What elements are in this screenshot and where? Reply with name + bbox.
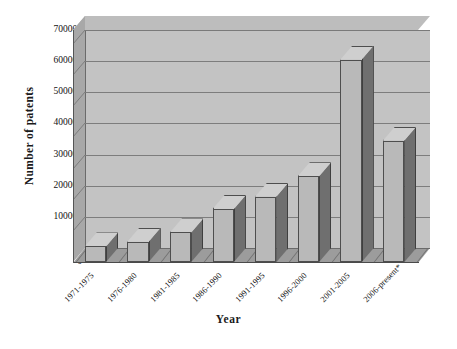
x-axis-title: Year — [0, 313, 457, 325]
bars-layer — [73, 16, 430, 263]
y-axis-title: Number of patents — [23, 46, 35, 226]
bar-1986-1990 — [213, 195, 246, 262]
x-axis-tick-label: 1981-1985 — [148, 270, 182, 304]
bar-front-face — [340, 60, 361, 262]
x-axis-tick-label: 2001-2005 — [318, 270, 352, 304]
bar-2006-present* — [383, 127, 416, 262]
bar-side-face — [276, 183, 288, 262]
bar-front-face — [170, 232, 191, 262]
bar-front-face — [213, 209, 234, 262]
bar-side-face — [404, 127, 416, 262]
x-axis-tick-label: 1986-1990 — [190, 270, 224, 304]
bar-1996-2000 — [298, 162, 331, 262]
x-axis-tick-label: 1991-1995 — [233, 270, 267, 304]
bar-1991-1995 — [255, 183, 288, 262]
x-axis-tick-label: 2006-present* — [361, 262, 403, 304]
bar-1971-1975 — [85, 232, 118, 262]
bar-front-face — [127, 242, 148, 262]
bar-front-face — [255, 197, 276, 262]
bar-front-face — [85, 246, 106, 262]
x-axis-tick-label: 1996-2000 — [275, 270, 309, 304]
bar-side-face — [362, 46, 374, 262]
bar-1981-1985 — [170, 218, 203, 262]
bar-2001-2005 — [340, 46, 373, 262]
x-axis-tick-label: 1971-1975 — [62, 270, 96, 304]
bar-front-face — [383, 141, 404, 262]
bar-front-face — [298, 176, 319, 262]
bar-1976-1980 — [127, 228, 160, 262]
bar-side-face — [319, 162, 331, 262]
x-axis-tick-label: 1976-1980 — [105, 270, 139, 304]
patents-bar-chart: Number of patents 0100000200000300000400… — [0, 0, 457, 349]
